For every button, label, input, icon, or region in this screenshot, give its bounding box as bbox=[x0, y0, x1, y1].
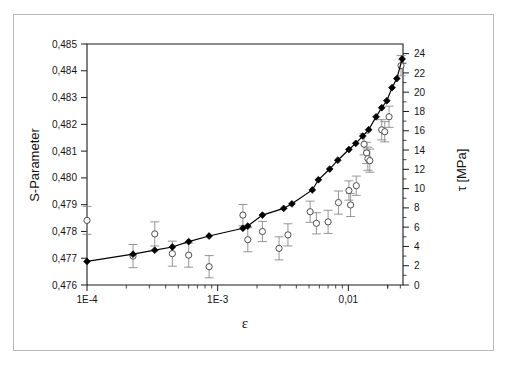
data-point-filled-diamond bbox=[280, 205, 287, 212]
y2-tick-label: 14 bbox=[414, 145, 426, 156]
data-point-open-circle bbox=[346, 187, 352, 193]
y-tick-label: 0,477 bbox=[52, 253, 77, 264]
data-point-filled-diamond bbox=[373, 113, 380, 120]
data-point-filled-diamond bbox=[309, 187, 316, 194]
data-point-open-circle bbox=[361, 141, 367, 147]
data-point-open-circle bbox=[335, 199, 341, 205]
y-tick-label: 0,476 bbox=[52, 280, 77, 291]
data-point-filled-diamond bbox=[206, 233, 213, 240]
y-axis-left-ticks bbox=[81, 44, 87, 285]
data-point-open-circle bbox=[152, 231, 158, 237]
series-s-parameter-diamonds bbox=[84, 56, 406, 265]
y2-tick-label: 4 bbox=[414, 241, 420, 252]
data-point-open-circle bbox=[313, 220, 319, 226]
trend-line bbox=[87, 59, 402, 261]
y2-tick-label: 2 bbox=[414, 260, 420, 271]
data-point-open-circle bbox=[206, 264, 212, 270]
series-s-parameter-line bbox=[87, 59, 402, 261]
data-point-filled-diamond bbox=[289, 200, 296, 207]
y2-tick-label: 20 bbox=[414, 87, 426, 98]
y-tick-label: 0,478 bbox=[52, 226, 77, 237]
data-point-filled-diamond bbox=[84, 258, 91, 265]
data-point-filled-diamond bbox=[399, 56, 406, 63]
y-axis-left-title: S-Parameter bbox=[27, 127, 42, 201]
y-tick-label: 0,483 bbox=[52, 92, 77, 103]
x-axis-title: ε bbox=[242, 315, 248, 331]
y-axis-left-tick-labels: 0,4760,4770,4780,4790,4800,4810,4820,483… bbox=[52, 39, 77, 291]
x-tick-label: 1E-4 bbox=[76, 294, 98, 305]
series-tau-open-circles bbox=[84, 63, 404, 270]
data-point-open-circle bbox=[382, 129, 388, 135]
axes-frame bbox=[87, 44, 403, 285]
y-tick-label: 0,480 bbox=[52, 172, 77, 183]
data-point-filled-diamond bbox=[389, 84, 396, 91]
data-point-open-circle bbox=[364, 150, 370, 156]
data-point-open-circle bbox=[325, 219, 331, 225]
y-tick-label: 0,484 bbox=[52, 65, 77, 76]
y2-tick-label: 10 bbox=[414, 183, 426, 194]
figure-container: 1E-41E-30,01 0,4760,4770,4780,4790,4800,… bbox=[0, 0, 509, 369]
chart-plot: 1E-41E-30,01 0,4760,4770,4780,4790,4800,… bbox=[0, 0, 509, 369]
data-point-open-circle bbox=[347, 202, 353, 208]
y-tick-label: 0,481 bbox=[52, 146, 77, 157]
y2-tick-label: 18 bbox=[414, 106, 426, 117]
y-tick-label: 0,485 bbox=[52, 39, 77, 50]
data-point-open-circle bbox=[259, 228, 265, 234]
y2-tick-label: 16 bbox=[414, 125, 426, 136]
y2-tick-label: 24 bbox=[414, 48, 426, 59]
data-point-filled-diamond bbox=[185, 238, 192, 245]
error-bars bbox=[83, 56, 406, 278]
y2-tick-label: 6 bbox=[414, 222, 420, 233]
data-point-open-circle bbox=[307, 209, 313, 215]
data-point-open-circle bbox=[240, 212, 246, 218]
y-axis-right-ticks bbox=[403, 54, 409, 285]
x-tick-label: 1E-3 bbox=[207, 294, 229, 305]
data-point-open-circle bbox=[169, 251, 175, 257]
data-point-open-circle bbox=[285, 232, 291, 238]
x-tick-label: 0,01 bbox=[339, 294, 359, 305]
x-axis-ticks bbox=[87, 285, 400, 291]
y-tick-label: 0,479 bbox=[52, 199, 77, 210]
y-axis-right-title: τ [MPa] bbox=[454, 149, 469, 192]
y2-tick-label: 0 bbox=[414, 280, 420, 291]
x-axis-tick-labels: 1E-41E-30,01 bbox=[76, 294, 358, 305]
y2-tick-label: 8 bbox=[414, 202, 420, 213]
data-point-open-circle bbox=[386, 114, 392, 120]
data-point-open-circle bbox=[353, 183, 359, 189]
data-point-open-circle bbox=[186, 252, 192, 258]
data-point-open-circle bbox=[367, 158, 373, 164]
data-point-open-circle bbox=[245, 237, 251, 243]
y-tick-label: 0,482 bbox=[52, 119, 77, 130]
data-point-open-circle bbox=[276, 245, 282, 251]
data-point-filled-diamond bbox=[151, 247, 158, 254]
y-axis-right-tick-labels: 024681012141618202224 bbox=[414, 48, 426, 290]
y2-tick-label: 12 bbox=[414, 164, 426, 175]
y2-tick-label: 22 bbox=[414, 68, 426, 79]
data-point-open-circle bbox=[84, 217, 90, 223]
data-point-filled-diamond bbox=[169, 244, 176, 251]
